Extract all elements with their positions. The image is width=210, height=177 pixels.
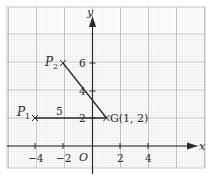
grid bbox=[7, 7, 205, 168]
point-g-label: G(1, 2) bbox=[110, 112, 148, 125]
coordinate-diagram: x y O −4 −2 2 4 2 4 6 5 P1 P2 G(1, 2) bbox=[0, 0, 210, 177]
x-tick-label: −2 bbox=[56, 152, 71, 164]
y-tick-label: 6 bbox=[79, 57, 86, 69]
x-axis-label: x bbox=[199, 140, 206, 153]
x-tick-label: −4 bbox=[28, 152, 44, 164]
origin-label: O bbox=[79, 151, 88, 164]
x-tick-label: 4 bbox=[145, 152, 152, 164]
y-axis-label: y bbox=[86, 6, 94, 19]
x-tick-label: 2 bbox=[117, 152, 124, 164]
point-p2-marker-icon bbox=[60, 60, 66, 66]
segment-length-label: 5 bbox=[56, 105, 63, 117]
